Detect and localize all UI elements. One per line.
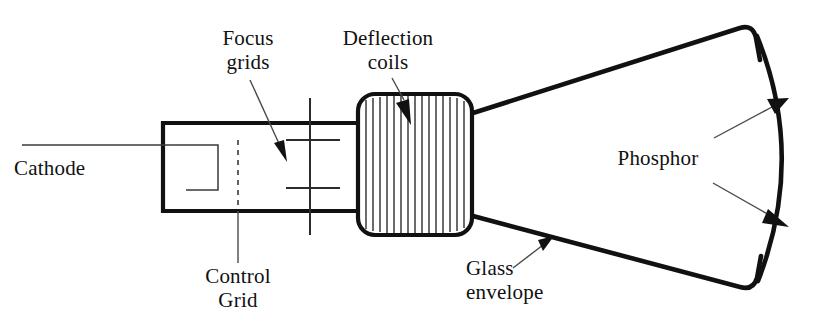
envelope-top-wall <box>473 27 760 113</box>
cathode-label: Cathode <box>14 156 85 180</box>
deflection-coils-label-line2: coils <box>368 50 409 74</box>
electron-gun-neck <box>163 123 362 211</box>
glass-envelope-label-line1: Glass <box>466 256 514 280</box>
glass-envelope-label-line2: envelope <box>466 280 543 304</box>
phosphor-label: Phosphor <box>618 146 699 170</box>
deflection-coils-group: Deflection coils <box>343 26 472 235</box>
phosphor-upper-leader-line <box>714 107 772 138</box>
deflection-coil-hatching <box>366 96 464 233</box>
crt-diagram: Cathode Control Grid Focus grids <box>0 0 828 315</box>
control-grid-label-line1: Control <box>205 264 271 288</box>
glass-envelope-label-group: Glass envelope <box>466 236 554 304</box>
neck-tube-outline <box>163 123 362 211</box>
control-grid-label-line2: Grid <box>218 288 258 312</box>
glass-envelope-leader-line <box>513 245 543 268</box>
deflection-coils-label-line1: Deflection <box>343 26 434 50</box>
glass-envelope-arrow-head <box>538 236 554 251</box>
focus-grids-label-line1: Focus <box>222 26 273 50</box>
phosphor-label-group: Phosphor <box>618 98 789 227</box>
phosphor-screen-curve <box>757 36 782 281</box>
crt-diagram-canvas: Cathode Control Grid Focus grids <box>0 0 828 315</box>
envelope-bottom-wall <box>473 216 761 288</box>
phosphor-lower-leader-line <box>713 183 771 216</box>
focus-grids-label-line2: grids <box>227 50 270 74</box>
